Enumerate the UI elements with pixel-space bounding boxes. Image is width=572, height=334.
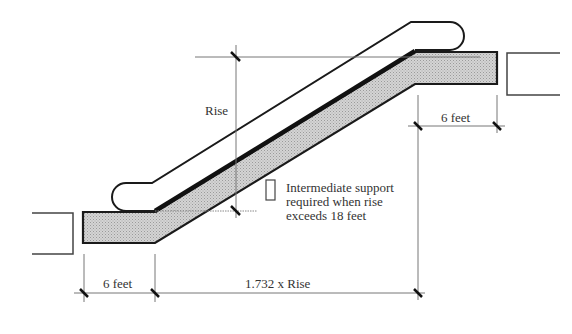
support-note-line2: required when rise — [286, 194, 383, 209]
escalator-diagram: Rise Intermediate support required when … — [0, 0, 572, 334]
top-floor-box — [507, 53, 560, 95]
horizontal-run-label: 1.732 x Rise — [245, 276, 311, 291]
bottom-floor-box — [32, 213, 73, 254]
support-note-line1: Intermediate support — [286, 180, 394, 195]
bottom-landing-length-label: 6 feet — [103, 276, 133, 291]
top-landing-length-label: 6 feet — [441, 110, 471, 125]
support-note-line3: exceeds 18 feet — [286, 208, 367, 223]
intermediate-support-icon — [266, 180, 275, 200]
rise-label: Rise — [205, 103, 228, 118]
